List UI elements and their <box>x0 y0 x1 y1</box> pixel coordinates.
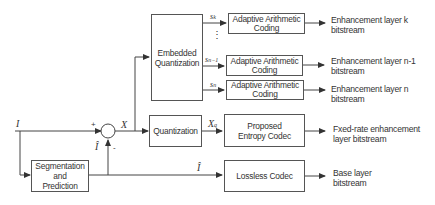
aac-n1-label-line2: Coding <box>252 66 277 75</box>
lossless-codec-label: Lossless Codec <box>236 171 292 181</box>
aac-k-block: Adaptive Arithmetic Coding <box>228 13 305 34</box>
prediction-symbol-node: Î <box>95 142 98 152</box>
output-base-layer: Base layer bitstream <box>333 168 372 188</box>
embedded-quantization-label: Embedded Quantization <box>152 48 202 68</box>
subband-n-label: sn <box>210 80 216 90</box>
lossless-codec-block: Lossless Codec <box>224 160 305 192</box>
subband-ellipsis: ⋮ <box>212 30 222 39</box>
output-layer-n1: Enhancement layer n-1 bitstream <box>331 56 416 76</box>
plus-sign: + <box>91 121 96 129</box>
quantization-label: Quantization <box>153 126 198 136</box>
output-layer-n: Enhancement layer n bitstream <box>331 84 408 104</box>
aac-k-label-line2: Coding <box>254 24 279 33</box>
residual-symbol: X <box>121 120 127 130</box>
entropy-codec-block: Proposed Entropy Codec <box>224 114 305 147</box>
segmentation-label-line1: Segmentation <box>35 161 84 171</box>
aac-n-block: Adaptive Arithmetic Coding <box>226 80 304 100</box>
input-symbol: I <box>16 119 19 129</box>
subband-n1-label: sn−1 <box>205 55 218 65</box>
aac-n-label-line2: Coding <box>252 90 277 99</box>
entropy-codec-label-line1: Proposed <box>247 121 281 131</box>
segmentation-prediction-block: Segmentation and Prediction <box>31 160 89 192</box>
minus-sign: - <box>113 144 116 152</box>
segmentation-label-line2: and <box>53 171 66 181</box>
prediction-symbol-line: Î <box>197 163 200 173</box>
quantized-symbol: Xq <box>208 119 217 130</box>
entropy-codec-label-line2: Entropy Codec <box>238 131 291 141</box>
summing-node <box>101 124 115 138</box>
quantization-block: Quantization <box>149 115 202 147</box>
aac-n1-block: Adaptive Arithmetic Coding <box>226 55 303 76</box>
embedded-quantization-block: Embedded Quantization <box>151 14 203 101</box>
output-fixed-rate: Fxed-rate enhancement layer bitstream <box>333 124 420 144</box>
subband-k-label: sk <box>210 12 216 22</box>
output-layer-k: Enhancement layer k bitstream <box>331 15 408 35</box>
segmentation-label-line3: Prediction <box>42 181 77 191</box>
